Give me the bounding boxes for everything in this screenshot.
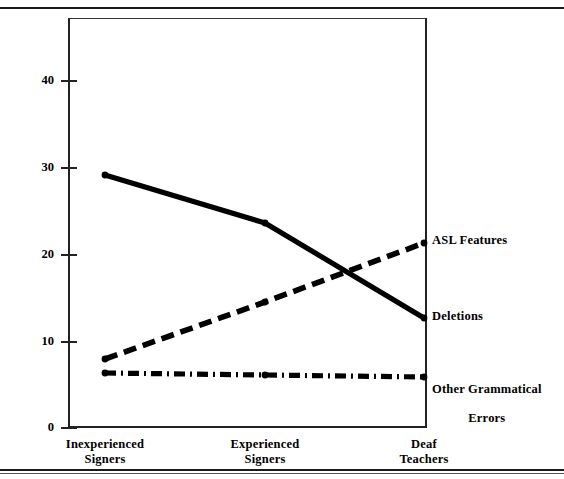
series-label-other-line-2: Errors	[432, 411, 542, 425]
series-deletions-marker-3	[421, 315, 428, 322]
series-asl-features-marker-1	[102, 356, 109, 363]
series-label-other-grammatical-errors: Other Grammatical Errors	[432, 368, 542, 440]
x-tick-label-line-1: Deaf	[349, 437, 499, 452]
x-tick-label-line-1: Experienced	[190, 437, 340, 452]
x-tick-label-line-2: Signers	[30, 452, 180, 467]
x-tick-label-experienced-signers: Experienced Signers	[190, 437, 340, 467]
series-asl-features-marker-3	[421, 240, 428, 247]
series-label-asl-features: ASL Features	[432, 233, 507, 247]
series-deletions-marker-2	[262, 220, 269, 227]
series-label-deletions: Deletions	[432, 309, 483, 323]
series-other-grammatical-errors	[102, 370, 428, 381]
series-other-grammatical-errors-marker-2	[262, 372, 269, 379]
x-tick-label-line-2: Signers	[190, 452, 340, 467]
series-deletions-marker-1	[102, 172, 109, 179]
series-label-other-line-1: Other Grammatical	[432, 382, 542, 396]
x-tick-label-line-1: Inexperienced	[30, 437, 180, 452]
series-other-grammatical-errors-marker-1	[102, 370, 109, 377]
series-asl-features	[102, 240, 428, 363]
series-asl-features-marker-2	[262, 299, 269, 306]
x-tick-label-deaf-teachers: Deaf Teachers	[349, 437, 499, 467]
figure-container: Number of Signs per 100 Produced 40 30 2…	[0, 0, 564, 479]
x-tick-label-inexperienced-signers: Inexperienced Signers	[30, 437, 180, 467]
series-deletions-line	[105, 175, 424, 318]
x-tick-label-line-2: Teachers	[349, 452, 499, 467]
series-other-grammatical-errors-marker-3	[421, 374, 428, 381]
